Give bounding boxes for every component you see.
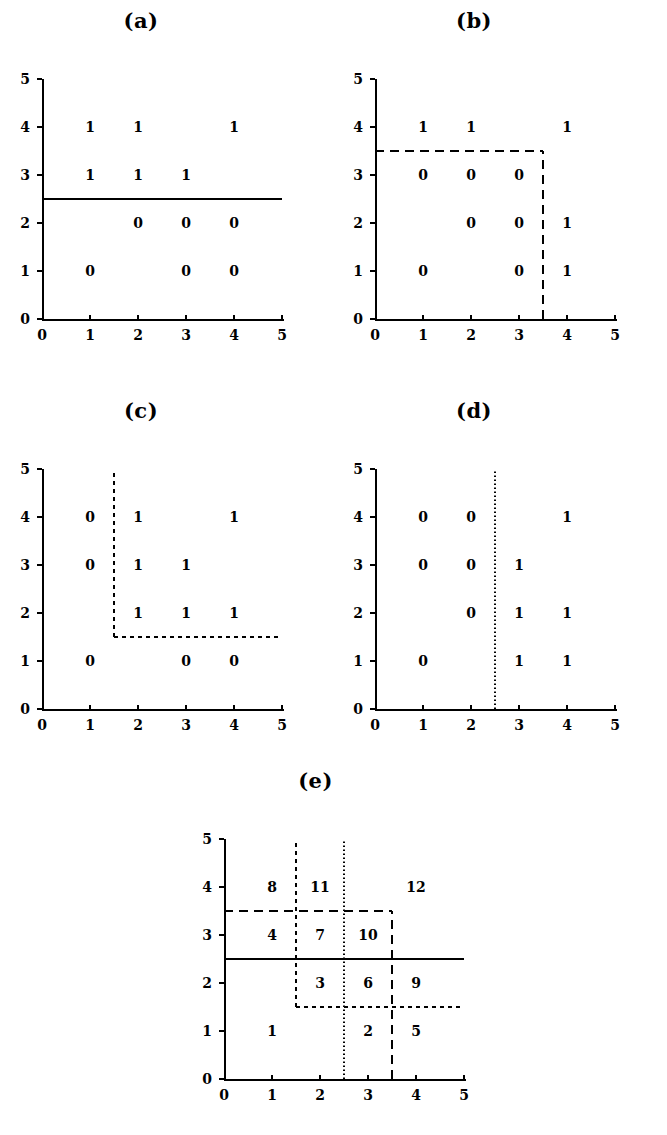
x-tick-label: 5 <box>274 718 290 732</box>
y-tick-label: 0 <box>347 702 363 716</box>
x-tick <box>233 315 235 320</box>
x-tick <box>470 705 472 710</box>
x-tick-label: 4 <box>408 1088 424 1102</box>
data-point-label: 1 <box>223 510 245 524</box>
y-tick-label: 1 <box>347 654 363 668</box>
y-tick-label: 0 <box>14 702 30 716</box>
y-tick-label: 1 <box>196 1024 212 1038</box>
data-point-label: 0 <box>508 216 530 230</box>
data-point-label: 7 <box>309 928 331 942</box>
x-tick-label: 1 <box>415 328 431 342</box>
data-point-label: 1 <box>261 1024 283 1038</box>
data-point-label: 1 <box>79 120 101 134</box>
data-point-label: 0 <box>508 168 530 182</box>
x-tick <box>367 1075 369 1080</box>
y-tick <box>370 660 375 662</box>
x-tick <box>518 705 520 710</box>
data-point-label: 1 <box>175 606 197 620</box>
x-tick-label: 1 <box>415 718 431 732</box>
y-tick-label: 5 <box>347 72 363 86</box>
x-tick <box>614 705 616 710</box>
data-point-label: 9 <box>405 976 427 990</box>
x-tick-label: 4 <box>559 328 575 342</box>
y-tick-label: 0 <box>196 1072 212 1086</box>
x-tick-label: 3 <box>178 718 194 732</box>
x-tick <box>233 705 235 710</box>
data-point-label: 1 <box>508 558 530 572</box>
data-point-label: 8 <box>261 880 283 894</box>
panel-title: (a) <box>0 8 282 33</box>
data-point-label: 1 <box>223 606 245 620</box>
y-tick-label: 0 <box>347 312 363 326</box>
data-point-label: 0 <box>175 654 197 668</box>
y-tick-label: 2 <box>347 606 363 620</box>
y-tick <box>370 174 375 176</box>
x-tick-label: 0 <box>367 718 383 732</box>
panel-title: (e) <box>167 768 464 793</box>
y-tick <box>219 982 224 984</box>
y-axis-line <box>375 469 377 711</box>
data-point-label: 0 <box>223 264 245 278</box>
x-tick <box>137 705 139 710</box>
data-point-label: 0 <box>175 264 197 278</box>
y-tick <box>37 78 42 80</box>
x-tick-label: 3 <box>178 328 194 342</box>
y-tick-label: 1 <box>14 264 30 278</box>
y-tick <box>37 222 42 224</box>
data-point-label: 1 <box>556 120 578 134</box>
y-tick <box>219 1030 224 1032</box>
data-point-label: 0 <box>79 264 101 278</box>
x-tick-label: 1 <box>82 328 98 342</box>
y-axis-line <box>42 79 44 321</box>
y-tick <box>370 222 375 224</box>
data-point-label: 0 <box>460 216 482 230</box>
y-tick <box>370 126 375 128</box>
y-tick-label: 3 <box>347 558 363 572</box>
x-tick <box>89 705 91 710</box>
data-point-label: 0 <box>79 558 101 572</box>
y-tick-label: 4 <box>14 120 30 134</box>
x-tick-label: 2 <box>463 718 479 732</box>
x-tick-label: 2 <box>463 328 479 342</box>
data-point-label: 11 <box>309 880 331 894</box>
data-point-label: 0 <box>79 510 101 524</box>
data-point-label: 3 <box>309 976 331 990</box>
y-tick <box>37 660 42 662</box>
data-point-label: 6 <box>357 976 379 990</box>
x-tick <box>271 1075 273 1080</box>
y-tick <box>370 612 375 614</box>
data-point-label: 1 <box>460 120 482 134</box>
panel-title: (b) <box>333 8 615 33</box>
data-point-label: 1 <box>556 654 578 668</box>
y-tick <box>370 708 375 710</box>
x-tick-label: 4 <box>226 328 242 342</box>
panel-d: (d)012345012345001001011011 <box>333 398 667 755</box>
y-tick <box>219 1078 224 1080</box>
data-point-label: 1 <box>127 120 149 134</box>
x-tick-label: 3 <box>511 718 527 732</box>
y-tick <box>37 318 42 320</box>
x-tick-label: 5 <box>274 328 290 342</box>
x-tick-label: 0 <box>34 328 50 342</box>
data-point-label: 0 <box>412 168 434 182</box>
y-tick <box>37 516 42 518</box>
y-tick <box>370 78 375 80</box>
data-point-label: 1 <box>556 510 578 524</box>
data-point-label: 0 <box>460 168 482 182</box>
y-tick-label: 5 <box>196 832 212 846</box>
data-point-label: 0 <box>412 510 434 524</box>
data-point-label: 1 <box>556 216 578 230</box>
x-tick-label: 3 <box>511 328 527 342</box>
y-tick-label: 5 <box>347 462 363 476</box>
y-tick-label: 2 <box>347 216 363 230</box>
y-axis-line <box>42 469 44 711</box>
x-tick <box>566 705 568 710</box>
y-tick <box>37 564 42 566</box>
data-point-label: 0 <box>223 654 245 668</box>
data-point-label: 1 <box>127 558 149 572</box>
x-tick-label: 1 <box>264 1088 280 1102</box>
data-point-label: 1 <box>127 606 149 620</box>
x-tick-label: 2 <box>130 718 146 732</box>
data-point-label: 0 <box>127 216 149 230</box>
x-tick <box>614 315 616 320</box>
